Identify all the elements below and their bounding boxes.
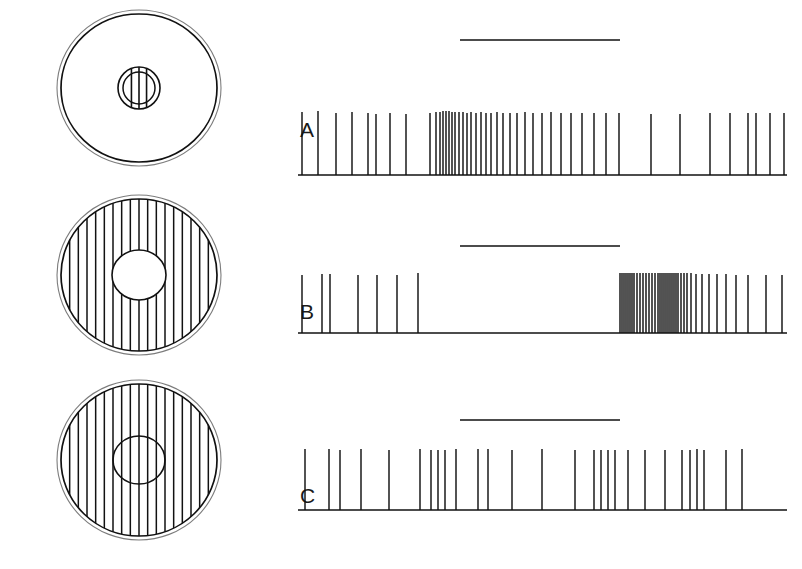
spike-group [302, 273, 782, 333]
figure-root: A B C [0, 0, 802, 569]
spike-trace-svg-c [290, 400, 795, 530]
stimulus-svg-c [34, 372, 244, 557]
stimulus-diagram-b [34, 185, 244, 365]
spike-trace-c [290, 400, 795, 560]
stimulus-svg-a [34, 0, 244, 180]
spike-trace-svg-b [290, 228, 795, 353]
stimulus-diagram-a [34, 0, 244, 180]
spike-group [302, 111, 784, 175]
spike-group [305, 449, 742, 510]
stimulus-diagram-c [34, 372, 244, 552]
spike-trace-svg-a [290, 20, 795, 195]
stimulus-svg-b [34, 185, 244, 370]
spike-trace-b [290, 228, 795, 388]
surround-grating [70, 382, 209, 538]
spike-trace-a [290, 20, 795, 180]
